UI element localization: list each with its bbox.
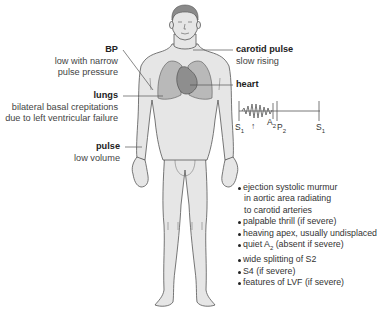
finding-quiet-a2: quiet A2 (absent if severe) — [238, 239, 377, 254]
heart-title: heart — [236, 79, 258, 91]
lungs-desc-1: bilateral basal crepitations — [0, 102, 118, 114]
bp-desc-2: pulse pressure — [40, 67, 118, 79]
carotid-label: carotid pulse slow rising — [236, 44, 293, 67]
carotid-desc-1: slow rising — [236, 56, 293, 68]
s1-right-label: S1 — [316, 122, 325, 134]
bp-desc-1: low with narrow — [40, 56, 118, 68]
pulse-desc-1: low volume — [40, 153, 120, 165]
finding-s4: S4 (if severe) — [238, 266, 377, 277]
finding-murmur-cont-2: to carotid arteries — [238, 205, 377, 216]
carotid-title: carotid pulse — [236, 44, 293, 56]
human-body-outline — [132, 8, 238, 306]
s1-left-label: S1 — [235, 122, 244, 134]
pulse-title: pulse — [40, 141, 120, 153]
lungs-label: lungs bilateral basal crepitations due t… — [0, 90, 118, 125]
finding-splitting: wide splitting of S2 — [238, 254, 377, 265]
bp-label: BP low with narrow pulse pressure — [40, 44, 118, 79]
lungs-title: lungs — [0, 90, 118, 102]
a2-label: A2 — [267, 117, 276, 129]
finding-murmur-cont-1: in aortic area radiating — [238, 193, 377, 204]
heart-label: heart — [236, 79, 258, 91]
finding-apex: heaving apex, usually undisplaced — [238, 228, 377, 239]
pulse-label: pulse low volume — [40, 141, 120, 164]
finding-murmur: ejection systolic murmur — [238, 182, 377, 193]
heart-findings-list: ejection systolic murmur in aortic area … — [238, 182, 377, 288]
bp-title: BP — [40, 44, 118, 56]
p2-label: P2 — [277, 122, 286, 134]
finding-thrill: palpable thrill (if severe) — [238, 216, 377, 227]
murmur-arrow-icon: ↑ — [251, 121, 255, 131]
lungs-desc-2: due to left ventricular failure — [0, 113, 118, 125]
phonocardiogram-trace — [239, 101, 320, 121]
finding-lvf: features of LVF (if severe) — [238, 277, 377, 288]
